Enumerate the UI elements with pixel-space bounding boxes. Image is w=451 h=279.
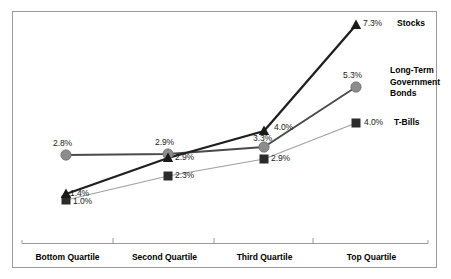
marker-bonds-q4 bbox=[351, 82, 361, 92]
data-label-bonds-q4: 5.3% bbox=[343, 70, 362, 80]
data-label-tbills-q3: 2.9% bbox=[271, 153, 290, 163]
legend-item-bonds-line3: Bonds bbox=[390, 88, 416, 98]
legend-item-bonds: Long-Term Government Bonds bbox=[390, 65, 440, 100]
marker-bonds-q3 bbox=[259, 142, 269, 152]
data-label-bonds-q2: 2.9% bbox=[155, 137, 174, 147]
data-label-tbills-q1: 1.0% bbox=[73, 196, 92, 206]
series-line-tbills bbox=[66, 123, 356, 200]
data-label-bonds-q1: 2.8% bbox=[53, 138, 72, 148]
data-label-tbills-q2: 2.3% bbox=[175, 170, 194, 180]
marker-tbills-q2 bbox=[164, 172, 173, 181]
data-label-bonds-q3: 3.3% bbox=[253, 133, 272, 143]
data-label-stocks-q2: 2.9% bbox=[175, 152, 194, 162]
x-axis-label-top-quartile: Top Quartile bbox=[315, 252, 428, 262]
x-axis-label-third-quartile: Third Quartile bbox=[216, 252, 313, 262]
x-axis-label-second-quartile: Second Quartile bbox=[115, 252, 214, 262]
data-label-stocks-q3: 4.0% bbox=[274, 122, 293, 132]
marker-tbills-q4 bbox=[352, 119, 361, 128]
x-axis-label-bottom-quartile: Bottom Quartile bbox=[22, 252, 113, 262]
legend-item-bonds-line2: Government bbox=[390, 77, 440, 87]
marker-tbills-q3 bbox=[260, 155, 269, 164]
legend-item-stocks: Stocks bbox=[397, 18, 425, 30]
legend-item-tbills: T-Bills bbox=[394, 117, 420, 129]
data-label-tbills-q4: 4.0% bbox=[364, 117, 383, 127]
marker-bonds-q1 bbox=[61, 150, 71, 160]
legend-item-bonds-line1: Long-Term bbox=[390, 65, 434, 75]
chart-container: 2.8% 1.4% 1.0% 2.9% 2.9% 2.3% 4.0% 3.3% … bbox=[0, 0, 451, 279]
marker-stocks-q4 bbox=[351, 20, 361, 30]
data-label-stocks-q4: 7.3% bbox=[363, 18, 382, 28]
